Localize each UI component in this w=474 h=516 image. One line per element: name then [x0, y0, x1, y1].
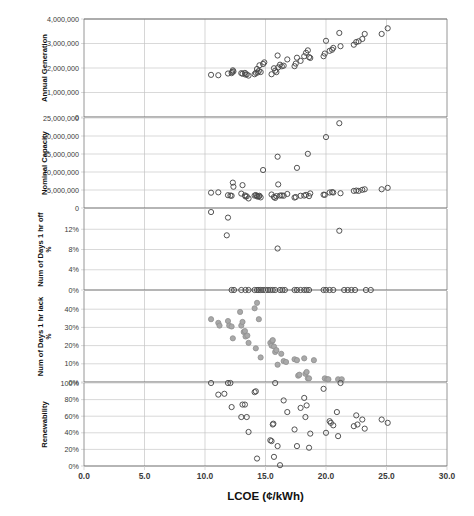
- data-point: [379, 187, 384, 192]
- x-tick-label: 25.0: [378, 471, 395, 481]
- x-tick-label: 20.0: [318, 471, 335, 481]
- y-axis-title: Nominal Capacity: [40, 130, 49, 194]
- data-point: [306, 376, 311, 381]
- x-tick-label: 15.0: [257, 471, 274, 481]
- data-point: [321, 386, 326, 391]
- data-point: [379, 417, 384, 422]
- data-point: [297, 372, 302, 377]
- y-tick-label: 8%: [69, 245, 80, 254]
- data-point: [240, 319, 245, 324]
- y-tick-label: 0%: [69, 286, 80, 295]
- y-tick-label: 20%: [65, 341, 80, 350]
- y-tick-label: 10%: [65, 359, 80, 368]
- data-point: [230, 336, 235, 341]
- data-point: [354, 413, 359, 418]
- data-point: [271, 454, 276, 459]
- y-axis-title: Num of Days 1 hr lack: [36, 296, 45, 376]
- data-point: [208, 72, 213, 77]
- data-point: [385, 26, 390, 31]
- x-tick-label: 5.0: [139, 471, 151, 481]
- data-point: [208, 317, 213, 322]
- data-point: [224, 233, 229, 238]
- data-point: [302, 356, 307, 361]
- y-tick-label: 0%: [69, 462, 80, 471]
- data-point: [217, 323, 222, 328]
- data-point: [362, 426, 367, 431]
- y-tick-label: 0: [75, 204, 79, 213]
- data-point: [303, 414, 308, 419]
- data-point: [270, 338, 275, 343]
- data-point: [208, 209, 213, 214]
- data-point: [254, 456, 259, 461]
- data-point: [379, 31, 384, 36]
- y-tick-label: 5,000,000: [47, 186, 79, 195]
- scatter-panel-chart: 01,000,0002,000,0003,000,0004,000,000Ann…: [0, 0, 474, 516]
- data-point: [240, 183, 245, 188]
- data-point: [274, 348, 279, 353]
- data-point: [276, 182, 281, 187]
- data-point: [229, 404, 234, 409]
- data-point: [244, 414, 249, 419]
- data-point: [275, 53, 280, 58]
- data-point: [304, 403, 309, 408]
- data-point: [283, 359, 288, 364]
- y-tick-label: 60%: [65, 412, 80, 421]
- data-point: [239, 414, 244, 419]
- data-point: [246, 340, 251, 345]
- data-point: [308, 431, 313, 436]
- y-tick-label: 3,000,000: [47, 39, 79, 48]
- data-point: [254, 300, 259, 305]
- panel-1: 05,000,00010,000,00015,000,00020,000,000…: [40, 114, 447, 213]
- data-point: [256, 317, 261, 322]
- data-point: [275, 154, 280, 159]
- data-point: [285, 57, 290, 62]
- data-point: [208, 190, 213, 195]
- y-axis-title: Renewability: [40, 401, 49, 448]
- panel-3: 0%10%20%30%40%Num of Days 1 hr lack%: [36, 291, 447, 387]
- data-point: [360, 417, 365, 422]
- data-point: [253, 346, 258, 351]
- y-axis-title: Annual Generation: [40, 34, 49, 102]
- data-point: [292, 427, 297, 432]
- y-tick-label: 40%: [65, 305, 80, 314]
- data-point: [311, 358, 316, 363]
- data-point: [337, 121, 342, 126]
- y-tick-label: 25,000,000: [43, 114, 79, 123]
- data-point: [294, 358, 299, 363]
- data-point: [275, 246, 280, 251]
- x-tick-label: 10.0: [197, 471, 214, 481]
- data-point: [385, 420, 390, 425]
- y-tick-label: 2,000,000: [47, 64, 79, 73]
- x-tick-label: 0.0: [78, 471, 90, 481]
- data-point: [246, 429, 251, 434]
- y-tick-label: 1,000,000: [47, 88, 79, 97]
- data-point: [277, 463, 282, 468]
- y-axis-subtitle: %: [45, 333, 52, 339]
- data-point: [294, 165, 299, 170]
- chart-figure: 01,000,0002,000,0003,000,0004,000,000Ann…: [0, 0, 474, 516]
- y-tick-label: 12%: [65, 225, 80, 234]
- data-point: [252, 306, 257, 311]
- data-point: [216, 190, 221, 195]
- y-tick-label: 20%: [65, 445, 80, 454]
- data-point: [258, 355, 263, 360]
- y-tick-label: 30%: [65, 323, 80, 332]
- panel-2: 0%4%8%12%Num of Days 1 hr off%: [36, 209, 447, 295]
- data-point: [262, 60, 267, 65]
- data-point: [326, 377, 331, 382]
- data-point: [362, 31, 367, 36]
- data-point: [275, 362, 280, 367]
- y-axis-title: Num of Days 1 hr off: [36, 212, 45, 287]
- y-tick-label: 40%: [65, 428, 80, 437]
- data-point: [337, 30, 342, 35]
- panel-0: 01,000,0002,000,0003,000,0004,000,000Ann…: [40, 15, 447, 122]
- data-point: [245, 333, 250, 338]
- panel-4: 0%20%40%60%80%100%Renewability: [40, 379, 447, 471]
- data-point: [338, 191, 343, 196]
- data-point: [281, 398, 286, 403]
- data-point: [334, 409, 339, 414]
- data-point: [336, 434, 341, 439]
- data-point: [216, 392, 221, 397]
- data-point: [216, 73, 221, 78]
- data-point: [294, 443, 299, 448]
